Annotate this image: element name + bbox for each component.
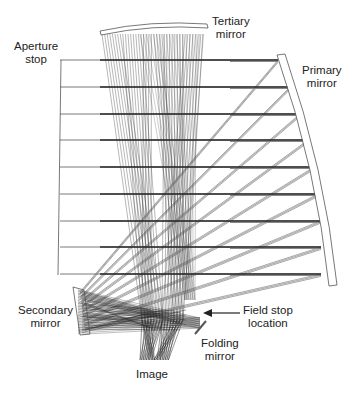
- optical-diagram: Aperture stop Tertiary mirror Primary mi…: [0, 0, 361, 397]
- label-line: location: [243, 317, 293, 330]
- label-line: Folding: [201, 337, 239, 350]
- label-line: mirror: [302, 77, 342, 90]
- tertiary-mirror: [100, 23, 208, 35]
- image-label: Image: [136, 368, 168, 381]
- label-line: mirror: [201, 350, 239, 363]
- label-line: Aperture: [14, 40, 58, 53]
- aperture-stop-line: [58, 60, 61, 275]
- tertiary-mirror-label: Tertiary mirror: [212, 15, 250, 41]
- label-line: Tertiary: [212, 15, 250, 28]
- field-stop-label: Field stop location: [243, 304, 293, 330]
- label-line: Image: [136, 368, 168, 381]
- aperture-stop-label: Aperture stop: [14, 40, 58, 66]
- primary-mirror-label: Primary mirror: [302, 64, 342, 90]
- secondary-mirror-label: Secondary mirror: [18, 304, 73, 330]
- folding-mirror-label: Folding mirror: [201, 337, 239, 363]
- label-line: Secondary: [18, 304, 73, 317]
- label-line: stop: [14, 53, 58, 66]
- label-line: Primary: [302, 64, 342, 77]
- label-line: Field stop: [243, 304, 293, 317]
- field-stop-arrowhead: [203, 309, 212, 317]
- label-line: mirror: [18, 317, 73, 330]
- label-line: mirror: [212, 28, 250, 41]
